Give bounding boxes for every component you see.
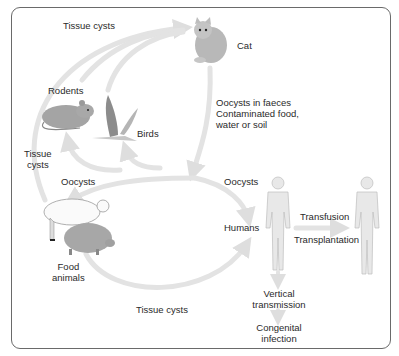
label-line: cysts <box>24 159 52 170</box>
label-cat: Cat <box>237 40 252 51</box>
label-oocysts-faeces: Oocysts in faeces Contaminated food, wat… <box>216 97 299 130</box>
human-recipient-icon <box>355 177 379 274</box>
arrow-cat-to-environment <box>193 68 210 172</box>
label-line: Vertical <box>250 288 308 299</box>
label-transplantation: Transplantation <box>294 234 359 245</box>
rodent-icon <box>42 100 94 130</box>
label-line: Food <box>52 261 85 272</box>
label-oocysts-right: Oocysts <box>224 176 258 187</box>
label-tissue-cysts-bottom: Tissue cysts <box>136 304 188 315</box>
arrow-food-animals-to-humans <box>86 245 246 287</box>
label-line: Contaminated food, <box>216 108 299 119</box>
label-food-animals: Food animals <box>52 261 85 283</box>
cat-icon <box>194 17 227 63</box>
arrow-environment-to-birds <box>126 150 160 168</box>
pig-icon <box>64 223 115 255</box>
label-rodents: Rodents <box>48 85 83 96</box>
bird-icon <box>92 95 138 141</box>
label-tissue-cysts-left: Tissue cysts <box>24 148 52 170</box>
label-line: Congenital <box>250 322 308 333</box>
label-line: Oocysts in faeces <box>216 97 299 108</box>
label-line: transmission <box>250 299 308 310</box>
label-birds: Birds <box>137 128 159 139</box>
label-oocysts-left: Oocysts <box>61 176 95 187</box>
arrow-environment-to-rodents <box>68 141 120 170</box>
label-vertical-transmission: Vertical transmission <box>250 288 308 310</box>
human-icon <box>266 177 290 270</box>
label-line: Tissue <box>24 148 52 159</box>
diagram-artwork <box>0 0 399 356</box>
label-humans: Humans <box>224 222 259 233</box>
label-transfusion: Transfusion <box>300 211 349 222</box>
label-line: infection <box>250 333 308 344</box>
label-line: water or soil <box>216 119 299 130</box>
label-tissue-cysts-top: Tissue cysts <box>63 20 115 31</box>
label-line: animals <box>52 272 85 283</box>
label-congenital-infection: Congenital infection <box>250 322 308 344</box>
